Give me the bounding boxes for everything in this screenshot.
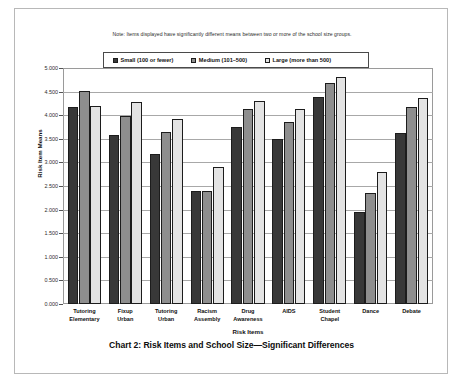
legend-swatch-icon — [191, 58, 196, 63]
bar — [120, 116, 131, 304]
legend-swatch-icon — [113, 58, 118, 63]
legend-label: Small (100 or fewer) — [121, 57, 174, 63]
legend-item: Large (more than 500) — [265, 57, 331, 63]
x-axis-label: Risk Items — [63, 328, 433, 335]
bar — [377, 172, 388, 304]
y-axis-label: Risk Item Means — [36, 114, 43, 194]
y-tick-label: 4.000 — [33, 112, 58, 118]
bar — [90, 106, 101, 304]
bar — [231, 127, 242, 304]
y-tick-mark — [59, 139, 63, 140]
bar — [202, 191, 213, 304]
bar — [213, 167, 224, 304]
chart-note: Note: Items displayed have significantly… — [15, 31, 449, 37]
bar-group — [105, 68, 146, 304]
bar-group — [146, 68, 187, 304]
y-tick-mark — [59, 162, 63, 163]
x-category-label: TutoringElementary — [64, 307, 105, 324]
bar — [406, 107, 417, 304]
bar-group — [391, 68, 432, 304]
y-tick-mark — [59, 280, 63, 281]
x-category-label: TutoringUrban — [146, 307, 187, 324]
bar — [68, 107, 79, 304]
bar — [295, 109, 306, 304]
y-tick-label: 2.000 — [33, 207, 58, 213]
x-category-label: StudentChapel — [309, 307, 350, 324]
x-category-label: FixupUrban — [105, 307, 146, 324]
y-tick-label: 3.500 — [33, 136, 58, 142]
bar — [109, 135, 120, 304]
bar-group — [309, 68, 350, 304]
bar — [365, 193, 376, 304]
y-tick-label: 0.500 — [33, 277, 58, 283]
bar — [254, 101, 265, 304]
bar — [150, 154, 161, 304]
x-category-label: Debate — [391, 307, 432, 315]
bar — [284, 122, 295, 304]
legend-item: Small (100 or fewer) — [113, 57, 173, 63]
y-tick-mark — [59, 210, 63, 211]
x-category-label: AIDS — [268, 307, 309, 315]
chart-caption: Chart 2: Risk Items and School Size—Sign… — [0, 340, 463, 350]
legend-item: Medium (101–500) — [191, 57, 247, 63]
bar — [336, 77, 347, 304]
chart-legend: Small (100 or fewer)Medium (101–500)Larg… — [103, 52, 369, 68]
bar — [161, 132, 172, 304]
y-tick-label: 1.500 — [33, 230, 58, 236]
y-tick-label: 1.000 — [33, 254, 58, 260]
bar-series-layer — [64, 68, 432, 304]
legend-label: Large (more than 500) — [273, 57, 331, 63]
legend-swatch-icon — [265, 58, 270, 63]
x-category-label: DrugAwareness — [228, 307, 269, 324]
bar — [395, 133, 406, 304]
legend-label: Medium (101–500) — [199, 57, 247, 63]
y-tick-label: 0.000 — [33, 301, 58, 307]
bar — [79, 91, 90, 304]
bar-group — [268, 68, 309, 304]
bar — [325, 83, 336, 304]
y-tick-mark — [59, 92, 63, 93]
y-tick-mark — [59, 233, 63, 234]
bar — [191, 191, 202, 304]
bar-group — [228, 68, 269, 304]
bar — [243, 109, 254, 304]
bar — [418, 98, 429, 304]
y-tick-mark — [59, 257, 63, 258]
bar — [272, 139, 283, 304]
bar-group — [350, 68, 391, 304]
y-tick-mark — [59, 186, 63, 187]
bar — [354, 212, 365, 304]
y-tick-label: 2.500 — [33, 183, 58, 189]
bar — [172, 119, 183, 304]
bar — [313, 97, 324, 304]
y-tick-label: 3.000 — [33, 159, 58, 165]
y-tick-label: 4.500 — [33, 89, 58, 95]
y-tick-mark — [59, 304, 63, 305]
x-category-label: Dance — [350, 307, 391, 315]
bar-group — [187, 68, 228, 304]
plot-area: Risk Item Means 0.0000.5001.0001.5002.00… — [63, 60, 433, 304]
bar — [131, 102, 142, 304]
bar-group — [64, 68, 105, 304]
y-tick-mark — [59, 68, 63, 69]
y-tick-label: 5.000 — [33, 65, 58, 71]
chart-figure: Note: Items displayed have significantly… — [14, 8, 448, 374]
y-tick-mark — [59, 115, 63, 116]
x-category-label: RacismAssembly — [187, 307, 228, 324]
